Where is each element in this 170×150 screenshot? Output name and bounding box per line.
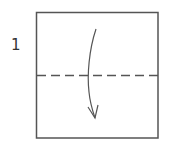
fold-diagram: [0, 0, 170, 150]
